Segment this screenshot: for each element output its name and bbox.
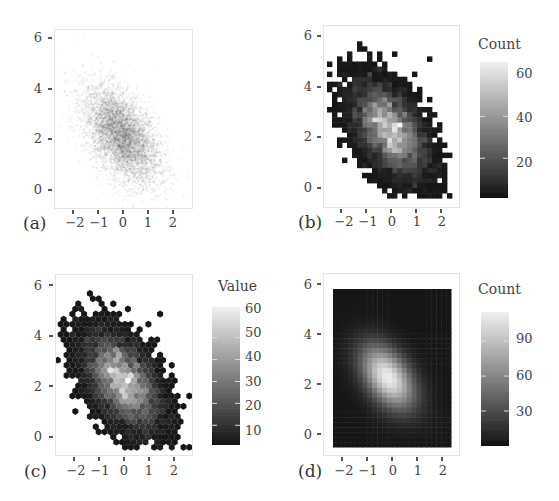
x-tick-mark xyxy=(415,209,417,213)
panel-label-b: (b) xyxy=(298,214,322,231)
colorbar-tick-label: 20 xyxy=(516,156,533,169)
x-tick-mark xyxy=(147,210,149,214)
x-tick-label: −1 xyxy=(88,464,112,477)
colorbar-tick-label: 30 xyxy=(516,405,533,418)
y-tick-label: 0 xyxy=(298,181,312,194)
y-tick-label: 6 xyxy=(28,31,42,44)
x-tick-label: 2 xyxy=(162,464,186,477)
y-tick-mark xyxy=(48,37,52,39)
x-tick-label: 2 xyxy=(430,215,454,228)
x-tick-label: 2 xyxy=(431,464,455,477)
y-tick-label: 4 xyxy=(28,82,42,95)
y-tick-mark xyxy=(317,35,321,37)
colorbar xyxy=(212,307,240,445)
x-tick-mark xyxy=(440,209,442,213)
x-tick-mark xyxy=(148,457,150,461)
colorbar-tick-label: 60 xyxy=(516,67,533,80)
x-tick-mark xyxy=(390,209,392,213)
x-tick-mark xyxy=(97,210,99,214)
x-tick-mark xyxy=(122,210,124,214)
x-tick-mark xyxy=(72,210,74,214)
colorbar-tick-label: 90 xyxy=(516,332,533,345)
y-tick-mark xyxy=(317,383,321,385)
x-tick-label: 0 xyxy=(380,215,404,228)
x-tick-label: 1 xyxy=(406,464,430,477)
x-tick-label: 1 xyxy=(137,464,161,477)
y-tick-label: 6 xyxy=(298,278,312,291)
x-tick-label: −1 xyxy=(87,216,111,229)
y-tick-mark xyxy=(317,433,321,435)
colorbar xyxy=(481,312,509,446)
x-tick-label: −1 xyxy=(356,215,380,228)
colorbar-title: Value xyxy=(218,279,257,293)
x-tick-label: −2 xyxy=(332,464,356,477)
y-tick-label: 0 xyxy=(298,428,312,441)
x-tick-mark xyxy=(98,457,100,461)
panel-label-c: (c) xyxy=(24,463,47,480)
y-tick-mark xyxy=(317,136,321,138)
y-tick-label: 4 xyxy=(28,329,42,342)
y-tick-label: 2 xyxy=(298,130,312,143)
colorbar xyxy=(480,62,508,198)
bin2d-plot-area xyxy=(323,25,460,208)
colorbar-tick-label: 30 xyxy=(245,375,262,388)
y-tick-mark xyxy=(48,88,52,90)
x-tick-mark xyxy=(365,209,367,213)
colorbar-title: Count xyxy=(478,37,521,51)
y-tick-mark xyxy=(48,189,52,191)
x-tick-mark xyxy=(391,457,393,461)
y-tick-mark xyxy=(49,385,53,387)
colorbar-tick-label: 40 xyxy=(516,111,533,124)
y-tick-label: 2 xyxy=(28,380,42,393)
y-tick-label: 2 xyxy=(298,378,312,391)
x-tick-mark xyxy=(340,209,342,213)
panel-label-d: (d) xyxy=(298,463,322,480)
colorbar-tick-label: 60 xyxy=(245,302,262,315)
y-tick-mark xyxy=(49,284,53,286)
x-tick-mark xyxy=(73,457,75,461)
x-tick-mark xyxy=(172,210,174,214)
density-raster-plot-area xyxy=(323,273,460,456)
y-tick-mark xyxy=(317,187,321,189)
y-tick-label: 6 xyxy=(28,279,42,292)
x-tick-label: 1 xyxy=(136,216,160,229)
x-tick-label: −2 xyxy=(64,464,88,477)
x-tick-label: −2 xyxy=(63,216,87,229)
x-tick-mark xyxy=(341,457,343,461)
y-tick-label: 0 xyxy=(28,183,42,196)
y-tick-mark xyxy=(317,283,321,285)
y-tick-label: 4 xyxy=(298,80,312,93)
y-tick-label: 6 xyxy=(298,29,312,42)
x-tick-mark xyxy=(441,457,443,461)
x-tick-mark xyxy=(123,457,125,461)
colorbar-title: Count xyxy=(478,282,521,296)
y-tick-mark xyxy=(48,138,52,140)
colorbar-tick-label: 10 xyxy=(245,424,262,437)
x-tick-label: 0 xyxy=(112,464,136,477)
hexbin-plot-area xyxy=(55,274,193,456)
y-tick-label: 2 xyxy=(28,132,42,145)
x-tick-label: −1 xyxy=(356,464,380,477)
scatter-plot-area xyxy=(54,29,193,209)
x-tick-label: 0 xyxy=(111,216,135,229)
x-tick-label: −2 xyxy=(332,215,356,228)
y-tick-mark xyxy=(49,335,53,337)
y-tick-mark xyxy=(317,86,321,88)
x-tick-mark xyxy=(416,457,418,461)
x-tick-label: 2 xyxy=(161,216,185,229)
y-tick-mark xyxy=(317,333,321,335)
panel-label-a: (a) xyxy=(23,215,46,232)
x-tick-label: 1 xyxy=(405,215,429,228)
y-tick-label: 4 xyxy=(298,328,312,341)
x-tick-label: 0 xyxy=(381,464,405,477)
y-tick-mark xyxy=(49,436,53,438)
y-tick-label: 0 xyxy=(28,430,42,443)
colorbar-tick-label: 50 xyxy=(245,326,262,339)
x-tick-mark xyxy=(173,457,175,461)
colorbar-tick-label: 20 xyxy=(245,399,262,412)
x-tick-mark xyxy=(366,457,368,461)
colorbar-tick-label: 60 xyxy=(516,369,533,382)
colorbar-tick-label: 40 xyxy=(245,350,262,363)
